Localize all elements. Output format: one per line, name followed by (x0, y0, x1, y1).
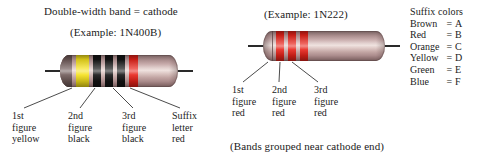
table-row: Red = B (410, 29, 462, 41)
suffix-letter-3: D (455, 52, 462, 64)
table-row: Green = E (410, 64, 462, 76)
figure-caption-right: (Bands grouped near cathode end) (230, 141, 384, 153)
suffix-eq-1: = (446, 29, 455, 41)
callout-right-1: 1st figure red (232, 84, 256, 119)
callout-right-2-line1: 2nd (272, 84, 296, 96)
callout-right-3-line3: red (314, 107, 338, 119)
suffix-colors-table: Suffix colors Brown = A Red = B Orange =… (410, 6, 463, 87)
suffix-letter-4: E (455, 64, 462, 76)
suffix-eq-4: = (446, 64, 455, 76)
suffix-table-heading: Suffix colors (410, 6, 463, 18)
callout-right-2-line3: red (272, 107, 296, 119)
suffix-color-2: Orange (410, 41, 446, 53)
callout-right-1-line2: figure (232, 96, 256, 108)
callout-right-1-line3: red (232, 107, 256, 119)
callout-right-3-line1: 3rd (314, 84, 338, 96)
table-row: Orange = C (410, 41, 462, 53)
suffix-letter-5: F (455, 76, 462, 88)
suffix-color-1: Red (410, 29, 446, 41)
suffix-table-body: Brown = A Red = B Orange = C Yellow = D … (410, 18, 462, 88)
suffix-color-3: Yellow (410, 52, 446, 64)
callout-right-3: 3rd figure red (314, 84, 338, 119)
suffix-letter-0: A (455, 18, 462, 30)
suffix-eq-0: = (446, 18, 455, 30)
suffix-color-0: Brown (410, 18, 446, 30)
callout-right-3-line2: figure (314, 96, 338, 108)
table-row: Blue = F (410, 76, 462, 88)
callout-right-2-line2: figure (272, 96, 296, 108)
suffix-eq-3: = (446, 52, 455, 64)
suffix-eq-2: = (446, 41, 455, 53)
suffix-color-5: Blue (410, 76, 446, 88)
figure-canvas: Double-width band = cathode (Example: 1N… (0, 0, 504, 164)
suffix-letter-1: B (455, 29, 462, 41)
callout-right-1-line1: 1st (232, 84, 256, 96)
callout-right-2: 2nd figure red (272, 84, 296, 119)
table-row: Yellow = D (410, 52, 462, 64)
table-row: Brown = A (410, 18, 462, 30)
suffix-eq-5: = (446, 76, 455, 88)
suffix-letter-2: C (455, 41, 462, 53)
suffix-color-4: Green (410, 64, 446, 76)
